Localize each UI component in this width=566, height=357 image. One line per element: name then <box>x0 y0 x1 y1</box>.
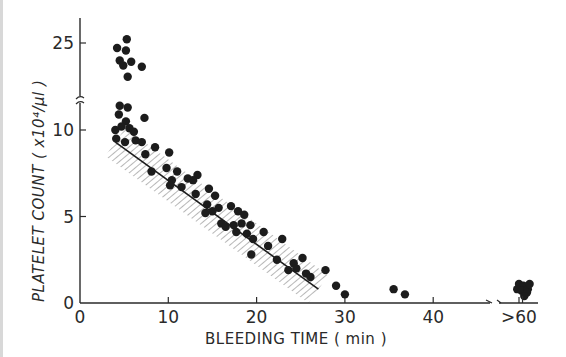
data-point <box>273 256 281 264</box>
y-tick-label: 5 <box>63 207 74 227</box>
data-point <box>119 61 127 69</box>
data-point <box>401 290 409 298</box>
data-point <box>232 228 240 236</box>
data-point <box>203 200 211 208</box>
data-point <box>201 209 209 217</box>
y-axis-break-mark <box>76 97 84 99</box>
data-point <box>259 228 267 236</box>
y-axis-title: PLATELET COUNT ( x10⁴/µl ) <box>30 80 48 302</box>
x-tick-label: 0 <box>75 307 86 327</box>
y-tick-label: 10 <box>52 120 74 140</box>
data-point <box>249 235 257 243</box>
data-point <box>127 58 135 66</box>
data-point <box>162 164 170 172</box>
x-tick-label: 40 <box>422 307 444 327</box>
x-axis-title: BLEEDING TIME ( min ) <box>205 330 387 348</box>
data-point <box>141 150 149 158</box>
data-point <box>246 221 254 229</box>
data-point <box>341 290 349 298</box>
data-point <box>332 282 340 290</box>
data-point <box>298 254 306 262</box>
data-point <box>112 134 120 142</box>
data-point <box>306 273 314 281</box>
x-tick-label: 20 <box>246 307 268 327</box>
data-point <box>138 63 146 71</box>
data-point <box>115 110 123 118</box>
y-tick-label: 0 <box>63 293 74 313</box>
data-point <box>264 242 272 250</box>
data-point <box>123 103 131 111</box>
data-point <box>221 223 229 231</box>
data-point <box>130 128 138 136</box>
y-tick-label: 25 <box>52 33 74 53</box>
data-point <box>189 176 197 184</box>
data-point <box>113 44 121 52</box>
x-tick-label: >60 <box>501 307 537 327</box>
data-point <box>191 190 199 198</box>
data-point <box>116 102 124 110</box>
data-point <box>205 185 213 193</box>
scatter-chart: 010203040>60051025 BLEEDING TIME ( min )… <box>0 0 566 357</box>
y-axis <box>76 18 84 303</box>
data-point <box>177 183 185 191</box>
data-point <box>237 219 245 227</box>
data-point <box>123 73 131 81</box>
data-point <box>140 114 148 122</box>
data-point <box>240 211 248 219</box>
data-point <box>520 292 528 300</box>
data-point <box>247 250 255 258</box>
data-point <box>321 266 329 274</box>
data-point <box>284 266 292 274</box>
data-point <box>138 138 146 146</box>
x-tick-label: 10 <box>157 307 179 327</box>
data-points <box>111 35 534 303</box>
data-point <box>121 138 129 146</box>
data-point <box>122 46 130 54</box>
data-point <box>117 122 125 130</box>
x-tick-label: 30 <box>334 307 356 327</box>
data-point <box>147 167 155 175</box>
data-point <box>165 148 173 156</box>
data-point <box>166 181 174 189</box>
data-point <box>151 143 159 151</box>
data-point <box>173 167 181 175</box>
data-point <box>389 285 397 293</box>
data-point <box>123 35 131 43</box>
data-point <box>278 235 286 243</box>
data-point <box>525 280 533 288</box>
data-point <box>292 264 300 272</box>
data-point <box>208 207 216 215</box>
data-point <box>227 202 235 210</box>
data-point <box>211 192 219 200</box>
